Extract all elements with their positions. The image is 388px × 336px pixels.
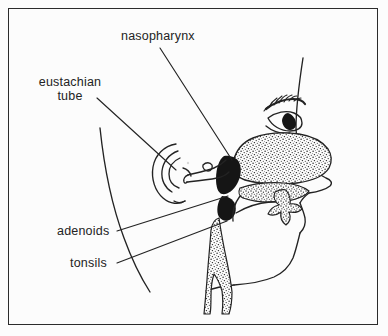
eyebrow-icon <box>264 95 305 111</box>
label-eustachian-line1: eustachian <box>39 75 101 89</box>
leader-nasopharynx <box>160 48 232 160</box>
figure-canvas: nasopharynx eustachiantube adenoids tons… <box>0 0 388 336</box>
nasopharynx-cavity <box>216 156 241 194</box>
ear-antihelix <box>169 158 180 188</box>
label-adenoids: adenoids <box>57 225 109 239</box>
ear-lobe <box>174 201 185 203</box>
pharyngeal-wall <box>204 218 232 314</box>
neck-contour <box>100 128 150 292</box>
eye-pupil <box>282 113 296 130</box>
leader-eustachian <box>97 98 176 170</box>
ear-canal-mark <box>187 162 189 164</box>
label-eustachian-line2: tube <box>57 89 82 103</box>
label-tonsils: tonsils <box>70 257 107 271</box>
lower-lip-chin <box>234 233 300 285</box>
nasal-cavity <box>233 133 331 184</box>
palate-lower-edge <box>233 196 240 221</box>
anatomy-illustration <box>0 0 388 336</box>
label-nasopharynx: nasopharynx <box>121 30 195 44</box>
eustachian-tube-ear-end <box>184 175 188 183</box>
label-eustachian-tube: eustachiantube <box>33 76 107 103</box>
soft-palate <box>239 183 309 202</box>
leader-adenoids <box>117 196 228 231</box>
